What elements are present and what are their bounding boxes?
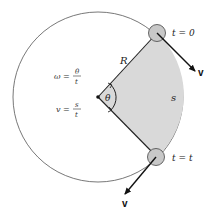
angle-label: θ [105, 93, 111, 103]
velocity-label-top: v [198, 67, 204, 78]
radius-label: R [119, 55, 128, 66]
svg-text:t: t [75, 78, 78, 86]
svg-text:s: s [75, 101, 79, 109]
angular-velocity-equation: ω = θ t [54, 68, 81, 86]
linear-velocity-equation: v = s t [56, 101, 81, 119]
velocity-label-bottom: v [122, 198, 128, 209]
center-point [96, 95, 100, 99]
svg-text:t: t [75, 111, 78, 119]
arc-length-label: s [171, 92, 176, 103]
svg-text:v =: v = [56, 105, 70, 114]
svg-text:ω =: ω = [54, 72, 70, 81]
svg-text:θ: θ [75, 68, 80, 76]
end-time-label: t = t [172, 153, 193, 163]
circular-motion-diagram: R θ s t = 0 t = t v v ω = θ t v = s t [0, 0, 218, 218]
start-time-label: t = 0 [172, 28, 195, 38]
